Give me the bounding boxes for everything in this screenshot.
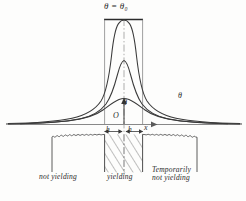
outer-curve-label: θ bbox=[178, 92, 182, 100]
zone-right-label: Temporarily not yielding bbox=[152, 166, 191, 182]
plateau-label: θ = θ₀ bbox=[104, 2, 128, 11]
figure-container: θ = θ₀ θ θ O x h h not yielding yielding… bbox=[0, 0, 246, 201]
origin-label: O bbox=[113, 112, 119, 120]
half-width-right-label: h bbox=[128, 126, 132, 134]
zone-left-label: not yielding bbox=[39, 173, 77, 181]
half-width-left-label: h bbox=[106, 126, 110, 134]
x-axis-label: x bbox=[144, 124, 148, 132]
zone-right-line2: not yielding bbox=[152, 174, 191, 182]
zone-center-label: yielding bbox=[107, 173, 133, 181]
yielding-hatch bbox=[105, 134, 143, 172]
theta-axis-label: θ bbox=[123, 99, 127, 107]
